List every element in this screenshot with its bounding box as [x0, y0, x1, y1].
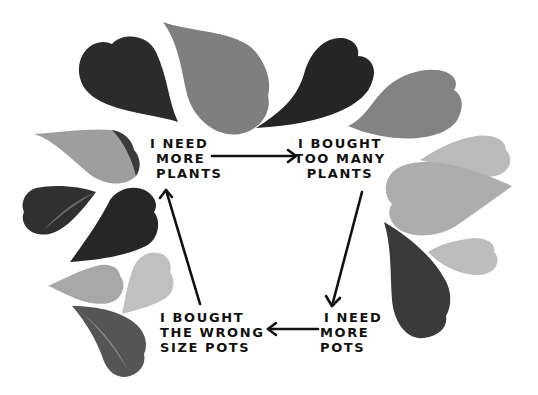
node-line: PLANTS: [290, 166, 390, 181]
leaf-top-2: [163, 22, 269, 135]
node-line: I BOUGHT: [290, 136, 390, 151]
plant-cycle-illustration: I NEED MORE PLANTS I BOUGHT TOO MANY PLA…: [0, 0, 538, 395]
leaf-wreath: [0, 0, 538, 395]
node-bought-too-many-plants: I BOUGHT TOO MANY PLANTS: [290, 136, 390, 181]
leaf-top-1: [79, 36, 178, 122]
arrow-plants-to-toomany: [212, 150, 296, 162]
node-line: MORE: [150, 151, 223, 166]
leaf-left-4: [48, 265, 123, 304]
node-line: I BOUGHT: [160, 310, 265, 325]
node-line: TOO MANY: [290, 151, 390, 166]
node-need-more-plants: I NEED MORE PLANTS: [150, 136, 223, 181]
node-need-more-pots: I NEED MORE POTS: [320, 310, 382, 355]
leaf-right-4: [384, 222, 450, 338]
leaf-top-3: [256, 38, 374, 128]
node-line: PLANTS: [150, 166, 223, 181]
leaf-left-5: [122, 253, 173, 315]
node-line: POTS: [320, 340, 382, 355]
node-bought-wrong-size-pots: I BOUGHT THE WRONG SIZE POTS: [160, 310, 265, 355]
leaf-left-6: [72, 306, 146, 377]
node-line: SIZE POTS: [160, 340, 265, 355]
node-line: I NEED: [150, 136, 223, 151]
arrow-toomany-to-pots: [326, 192, 362, 306]
node-line: I NEED: [320, 310, 382, 325]
leaf-left-1: [34, 129, 140, 183]
arrow-pots-to-wrongsize: [268, 323, 318, 335]
node-line: MORE: [320, 325, 382, 340]
leaf-left-2: [23, 186, 97, 235]
node-line: THE WRONG: [160, 325, 265, 340]
